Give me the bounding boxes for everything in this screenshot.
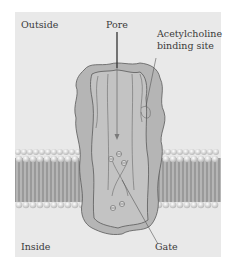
outside-label: Outside (21, 19, 58, 30)
binding-site-label-line1: Acetylcholine (157, 28, 222, 39)
receptor-protein (75, 63, 165, 235)
inside-label: Inside (21, 241, 51, 252)
pore-label: Pore (106, 19, 128, 30)
binding-site-label-line2: binding site (157, 40, 214, 51)
gate-label: Gate (155, 241, 178, 252)
